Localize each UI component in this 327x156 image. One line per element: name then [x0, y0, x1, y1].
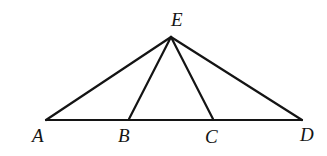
segment-e-b — [129, 37, 171, 119]
segment-e-a — [46, 37, 171, 120]
figure-segments — [46, 37, 302, 120]
vertex-label-b: B — [118, 126, 130, 145]
geometry-figure-canvas: E A B C D — [0, 0, 327, 156]
vertex-label-e: E — [171, 10, 183, 29]
vertex-label-d: D — [300, 125, 314, 144]
vertex-label-c: C — [205, 127, 218, 146]
vertex-label-a: A — [32, 126, 44, 145]
geometry-figure-svg — [0, 0, 327, 156]
segment-e-d — [171, 37, 302, 120]
